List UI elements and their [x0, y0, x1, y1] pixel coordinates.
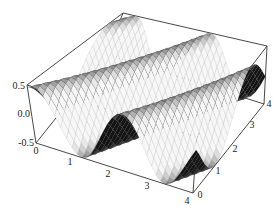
x-tick-label: 0 [34, 145, 39, 156]
x-tick-label: 2 [106, 168, 111, 179]
x-tick-label: 1 [68, 156, 73, 167]
y-tick-label: 3 [250, 119, 255, 130]
surface-mesh [27, 16, 265, 184]
y-tick-label: 1 [216, 165, 221, 176]
y-tick-label: 0 [198, 189, 203, 200]
y-tick-label: 4 [267, 98, 272, 109]
z-tick-label: -0.5 [18, 137, 34, 148]
z-tick-label: 0.0 [18, 108, 31, 119]
x-tick-label: 4 [185, 195, 190, 206]
y-tick-label: 2 [233, 143, 238, 154]
x-tick-label: 3 [145, 180, 150, 191]
surface-plot: 0.5 0.0 -0.5 0 1 2 3 4 0 1 2 3 4 [0, 0, 275, 212]
z-tick-label: 0.5 [13, 80, 26, 91]
